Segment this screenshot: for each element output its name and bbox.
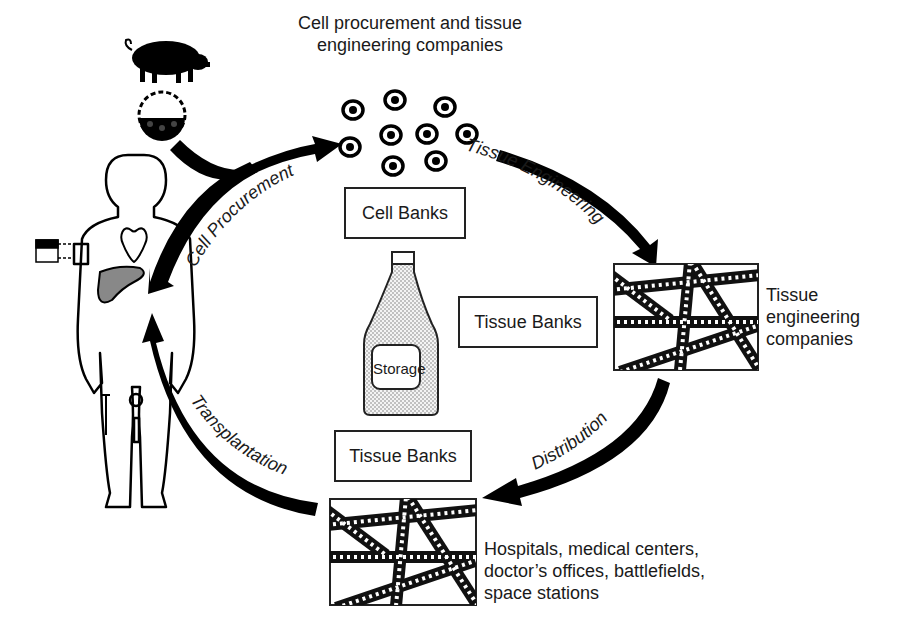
cells-icon xyxy=(340,91,477,175)
human-body-icon xyxy=(74,155,194,507)
tissue-engineering-companies-label: Tissue engineering companies xyxy=(766,284,860,350)
svg-text:Tissue Engineering: Tissue Engineering xyxy=(464,135,609,228)
liver-icon xyxy=(98,267,144,303)
scaffold-icon xyxy=(610,262,760,372)
pig-icon xyxy=(126,40,210,84)
cell-banks-box: Cell Banks xyxy=(344,187,466,239)
tissue-banks-box-right: Tissue Banks xyxy=(458,296,598,348)
arrow-cell-procurement xyxy=(148,136,342,294)
label-line: companies xyxy=(766,328,860,350)
arrow-transplantation xyxy=(142,313,318,516)
storage-bottle-icon xyxy=(364,252,438,415)
embryo-icon xyxy=(139,92,185,141)
title-line-2: engineering companies xyxy=(270,34,550,56)
label-line: engineering xyxy=(766,306,860,328)
destinations-label: Hospitals, medical centers, doctor’s off… xyxy=(484,538,705,604)
tissue-banks-box-bottom: Tissue Banks xyxy=(334,430,472,482)
storage-label: Storage xyxy=(373,358,421,380)
scaffold-icon xyxy=(326,497,478,608)
label-transplantation: Transplantation xyxy=(187,391,291,479)
svg-text:Transplantation: Transplantation xyxy=(187,391,291,479)
skin-sample-icon xyxy=(36,240,72,262)
label-line: doctor’s offices, battlefields, xyxy=(484,560,705,582)
label-tissue-engineering: Tissue Engineering xyxy=(464,135,609,228)
diagram-title: Cell procurement and tissue engineering … xyxy=(270,12,550,56)
label-line: Hospitals, medical centers, xyxy=(484,538,705,560)
label-line: space stations xyxy=(484,582,705,604)
label-line: Tissue xyxy=(766,284,860,306)
title-line-1: Cell procurement and tissue xyxy=(270,12,550,34)
